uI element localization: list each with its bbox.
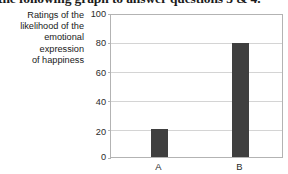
y-tick-label-0: 0 — [80, 153, 106, 162]
x-tick-label-b: B — [220, 161, 260, 172]
y-tick-mark-80 — [108, 43, 111, 44]
y-tick-label-100: 100 — [80, 10, 106, 19]
y-tick-mark-60 — [108, 72, 111, 73]
y-tick-mark-20 — [108, 130, 111, 131]
gridline-40 — [111, 101, 282, 102]
bar-category-b — [232, 43, 249, 157]
y-tick-mark-0 — [108, 158, 111, 159]
y-tick-mark-40 — [108, 101, 111, 102]
y-axis-title: Ratings of the likelihood of the emotion… — [0, 10, 84, 66]
y-tick-label-80: 80 — [80, 39, 106, 48]
bar-category-a — [151, 129, 168, 157]
y-tick-label-40: 40 — [80, 98, 106, 107]
gridline-60 — [111, 72, 282, 73]
gridline-80 — [111, 43, 282, 44]
x-axis-tick-labels: A B — [110, 161, 283, 174]
y-axis-title-line-1: Ratings of the — [0, 10, 84, 21]
bar-chart-figure: Ratings of the likelihood of the emotion… — [0, 0, 288, 174]
gridline-20 — [111, 130, 282, 131]
y-axis-title-line-3: emotional — [0, 32, 84, 43]
y-axis-title-line-5: of happiness — [0, 55, 84, 66]
y-axis-title-line-4: expression — [0, 44, 84, 55]
plot-area — [110, 14, 283, 158]
y-tick-mark-100 — [108, 14, 111, 15]
x-tick-label-a: A — [139, 161, 179, 172]
y-axis-title-line-2: likelihood of the — [0, 21, 84, 32]
y-axis-tick-labels: 100 80 60 40 20 0 — [80, 0, 106, 174]
y-tick-label-60: 60 — [80, 69, 106, 78]
y-tick-label-20: 20 — [80, 128, 106, 137]
